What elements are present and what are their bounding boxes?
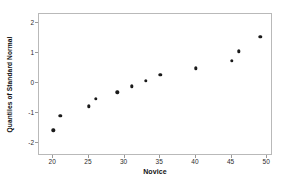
x-tick-label: 20 bbox=[49, 158, 56, 165]
y-tick-label: 1 bbox=[18, 48, 34, 55]
y-axis-label: Quantiles of Standard Normal bbox=[5, 13, 15, 155]
y-axis-label-text: Quantiles of Standard Normal bbox=[7, 36, 14, 132]
data-point bbox=[87, 105, 90, 108]
y-tick-label: 0 bbox=[18, 78, 34, 85]
data-point bbox=[59, 114, 62, 117]
data-point bbox=[258, 35, 261, 38]
x-tick-label: 35 bbox=[156, 158, 163, 165]
data-point bbox=[130, 85, 133, 88]
y-tick-label: -1 bbox=[18, 108, 34, 115]
data-point bbox=[194, 66, 197, 69]
data-point bbox=[237, 50, 240, 53]
x-axis-label: Novice bbox=[38, 168, 272, 175]
data-point bbox=[159, 73, 162, 76]
data-point bbox=[116, 91, 119, 94]
plot-area bbox=[38, 13, 272, 155]
data-point bbox=[52, 129, 55, 132]
y-tick-label: -2 bbox=[18, 138, 34, 145]
scatter-series bbox=[39, 14, 271, 154]
data-point bbox=[94, 97, 97, 100]
x-tick-label: 50 bbox=[263, 158, 270, 165]
x-tick-label: 25 bbox=[84, 158, 91, 165]
data-point bbox=[230, 59, 233, 62]
x-tick-label: 30 bbox=[120, 158, 127, 165]
x-tick-label: 45 bbox=[227, 158, 234, 165]
qq-plot-figure: Quantiles of Standard Normal -2-1012 202… bbox=[0, 0, 284, 185]
x-tick-label: 40 bbox=[191, 158, 198, 165]
y-tick-label: 2 bbox=[18, 18, 34, 25]
data-point bbox=[144, 79, 147, 82]
